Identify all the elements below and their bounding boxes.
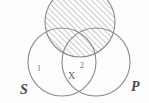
set-label-p: P (131, 80, 140, 94)
region-label-2: 2 (80, 62, 84, 70)
region-label-1: 1 (37, 65, 41, 73)
set-label-s: S (20, 83, 28, 97)
venn-diagram: 1 2 X S P (0, 0, 149, 103)
x-marker: X (68, 71, 75, 81)
